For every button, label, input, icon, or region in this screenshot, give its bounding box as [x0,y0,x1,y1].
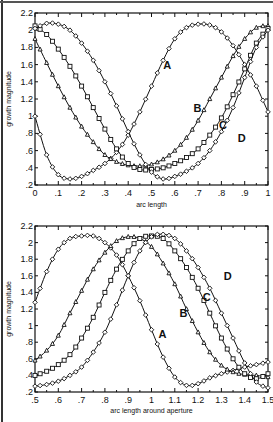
diamond-marker [254,84,259,89]
square-marker [243,372,247,376]
x-tick-label: 1 [149,395,154,405]
x-tick-label: 1.3 [215,395,228,405]
x-tick-label: 1.4 [238,395,251,405]
square-marker [179,257,183,261]
square-marker [214,125,218,129]
square-marker [261,375,265,379]
diamond-marker [213,140,218,145]
diamond-marker [219,371,224,376]
diamond-marker [242,75,247,80]
diamond-marker [155,71,160,76]
diamond-marker [261,361,266,366]
series-c: C [33,234,270,381]
diamond-marker [56,22,61,27]
series-d: D [33,232,271,390]
curve-label-b: B [179,307,187,319]
curve-label-d: D [238,132,246,144]
square-marker [225,105,229,109]
diamond-marker [248,73,253,78]
diamond-marker [167,176,172,181]
square-marker [208,133,212,137]
square-marker [68,64,72,68]
square-marker [80,336,84,340]
diamond-marker [237,91,242,96]
x-axis-title: arc length around aperture [110,407,193,415]
square-marker [161,166,165,170]
square-marker [219,336,223,340]
diamond-marker [149,84,154,89]
square-marker [237,80,241,84]
diamond-marker [114,104,119,109]
triangle-marker [115,159,119,163]
x-tick-label: .5 [148,188,156,198]
diamond-marker [97,341,102,346]
x-tick-label: 1.1 [169,395,182,405]
diamond-marker [196,265,201,270]
square-marker [196,147,200,151]
plot-frame [35,13,268,185]
square-marker [173,249,177,253]
diamond-marker [108,91,113,96]
diamond-marker [219,311,224,316]
diamond-marker [38,132,43,137]
diamond-marker [213,373,218,378]
x-tick-label: 1.5 [262,395,273,405]
y-axis-title: growth magnitude [5,71,13,127]
square-marker [68,353,72,357]
triangle-marker [190,319,194,323]
x-tick-label: .9 [124,395,132,405]
diamond-marker [97,68,102,73]
x-tick-label: .2 [78,188,86,198]
y-tick-label: .4 [25,370,33,380]
triangle-marker [155,160,159,164]
diamond-marker [248,364,253,369]
y-tick-label: 1.6 [20,60,33,70]
square-marker [115,267,119,271]
triangle-marker [179,294,183,298]
square-marker [97,116,101,120]
diamond-marker [56,379,61,384]
square-marker [266,372,270,376]
diamond-marker [138,298,143,303]
diamond-marker [202,275,207,280]
diamond-marker [161,232,166,237]
diamond-marker [126,274,131,279]
x-tick-label: .8 [218,188,226,198]
series-a: A [33,233,271,388]
diamond-marker [254,362,259,367]
x-tick-label: .8 [101,395,109,405]
square-marker [167,242,171,246]
square-marker [74,74,78,78]
square-marker [190,275,194,279]
square-marker [91,106,95,110]
diamond-marker [173,174,178,179]
square-marker [109,278,113,282]
diamond-marker [167,46,172,51]
diamond-marker [225,323,230,328]
diamond-marker [207,23,212,28]
y-tick-label: 1.8 [20,254,33,264]
triangle-marker [38,47,42,51]
diamond-marker [33,114,38,119]
y-tick-label: .6 [25,146,33,156]
diamond-marker [85,233,90,238]
diamond-marker [132,122,137,127]
square-marker [167,164,171,168]
diamond-marker [161,355,166,360]
diamond-marker [62,176,67,181]
diamond-marker [266,360,271,365]
y-tick-label: .8 [25,128,33,138]
diamond-marker [167,366,172,371]
square-marker [132,165,136,169]
diamond-marker [143,97,148,102]
diamond-marker [120,117,125,122]
square-marker [196,286,200,290]
square-marker [56,47,60,51]
diamond-marker [97,165,102,170]
square-marker [103,127,107,131]
x-tick-label: .1 [55,188,63,198]
y-tick-label: 1 [28,321,33,331]
square-marker [74,345,78,349]
diamond-marker [108,317,113,322]
y-tick-label: 1.8 [20,42,33,52]
